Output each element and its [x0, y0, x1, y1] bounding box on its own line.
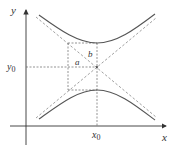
y0-label: y0: [6, 61, 15, 74]
x-axis-label: x: [161, 131, 167, 143]
hyperbola-diagram: y x y0 x0 a b: [0, 0, 171, 152]
center-point: [96, 66, 98, 68]
hyperbola-lower-branch: [39, 90, 155, 120]
a-label: a: [75, 57, 80, 67]
b-label: b: [88, 49, 93, 59]
y-axis-label: y: [10, 4, 16, 16]
x0-label: x0: [91, 129, 100, 142]
hyperbola-upper-branch: [39, 14, 155, 43]
asymptote-positive-slope: [36, 18, 156, 118]
